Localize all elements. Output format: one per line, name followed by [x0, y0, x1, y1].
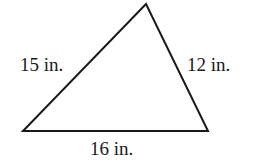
triangle-shape	[0, 0, 260, 160]
side-label-right: 12 in.	[187, 55, 230, 74]
side-label-bottom: 16 in.	[90, 139, 133, 158]
side-label-left: 15 in.	[20, 55, 63, 74]
triangle-diagram: 15 in. 12 in. 16 in.	[0, 0, 260, 160]
